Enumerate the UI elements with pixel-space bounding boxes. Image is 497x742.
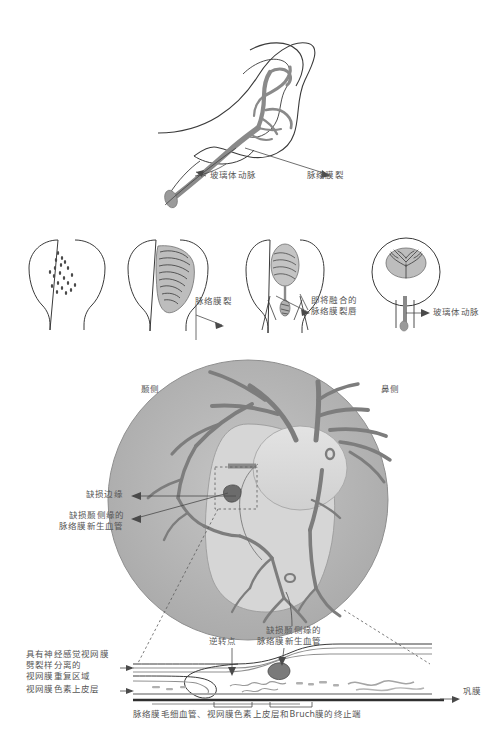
panel-c-illustration (108, 360, 430, 664)
label-sclera: 巩膜 (463, 686, 481, 697)
label-coloboma-margin: 缺损边缘 (86, 489, 123, 500)
label-cnv-temporal-line1: 缺损颞侧缘的 (69, 510, 124, 521)
label-termination-caption: 脉络膜毛细血管、视网膜色素上皮层和Bruch膜的终止端 (133, 709, 361, 720)
figure-illustration (0, 0, 497, 742)
stage-2-shape (128, 240, 224, 340)
stage-1-shape (29, 240, 105, 330)
label-fusing-fissure-lips-line2: 脉络膜裂唇 (311, 306, 357, 317)
label-rpe: 视网膜色素上皮层 (26, 684, 100, 695)
panel-a-illustration (158, 43, 330, 210)
label-hyaloid-artery-b: 玻璃体动脉 (433, 307, 479, 318)
figure-root: 玻璃体动脉 脉络膜裂 脉络膜裂 即将融合的 脉络膜裂唇 玻璃体动脉 颞侧 鼻侧 … (0, 0, 497, 742)
label-cnv-temporal-line2: 脉络膜新生血管 (59, 521, 123, 532)
label-choroidal-fissure-a: 脉络膜裂 (307, 170, 344, 181)
stage-3-shape (246, 240, 324, 333)
label-fusing-fissure-lips-line1: 即将融合的 (311, 295, 357, 306)
label-schisis-line2: 劈裂样分离的 (26, 660, 81, 671)
panel-d-illustration (120, 644, 460, 707)
label-hyaloid-artery-a: 玻璃体动脉 (210, 170, 256, 181)
label-cnv-bottom-line1: 缺损颞侧缘的 (266, 625, 321, 636)
stage-4-shape (372, 238, 440, 331)
label-cnv-bottom-line2: 脉络膜新生血管 (257, 636, 321, 647)
label-schisis-line1: 具有神经感觉视网膜 (26, 649, 109, 660)
label-choroidal-fissure-b: 脉络膜裂 (195, 296, 232, 307)
label-temporal-side: 颞侧 (141, 384, 159, 395)
panel-b-illustration (29, 238, 440, 340)
label-reversal-point: 逆转点 (209, 636, 237, 647)
label-schisis-line3: 视网膜重复区域 (26, 671, 90, 682)
label-nasal-side: 鼻侧 (381, 384, 399, 395)
